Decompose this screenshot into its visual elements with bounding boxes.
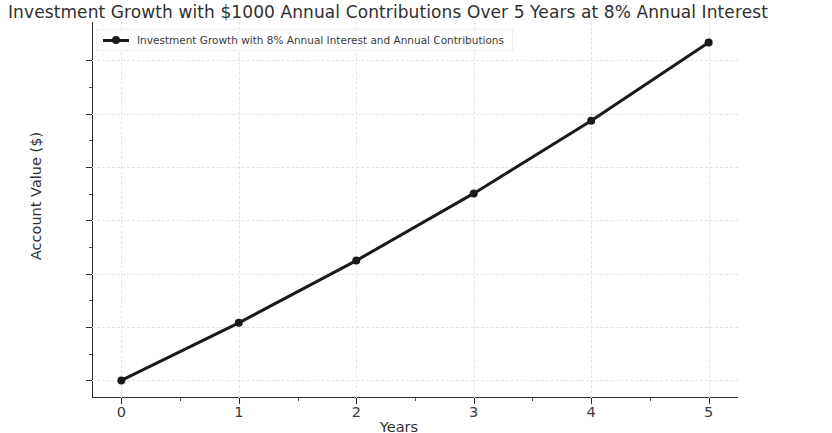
gridline-vertical	[709, 22, 710, 398]
y-tick-minor	[89, 354, 92, 355]
plot-area	[92, 22, 738, 398]
x-tick-minor	[650, 398, 651, 401]
y-tick-mark	[86, 274, 92, 275]
y-tick-minor	[89, 194, 92, 195]
gridline-horizontal	[92, 327, 738, 328]
gridline-horizontal	[92, 380, 738, 381]
x-tick-label: 2	[352, 404, 361, 420]
gridline-vertical	[356, 22, 357, 398]
gridline-horizontal	[92, 167, 738, 168]
y-tick-mark	[86, 60, 92, 61]
y-tick-mark	[86, 380, 92, 381]
y-tick-mark	[86, 167, 92, 168]
x-axis-label-text: Years	[380, 419, 418, 433]
y-tick-mark	[86, 220, 92, 221]
gridline-vertical	[474, 22, 475, 398]
legend-line-marker-icon	[103, 34, 129, 46]
gridline-horizontal	[92, 220, 738, 221]
chart-figure: Investment Growth with $1000 Annual Cont…	[0, 0, 832, 433]
y-tick-minor	[89, 87, 92, 88]
y-tick-minor	[89, 300, 92, 301]
gridline-vertical	[591, 22, 592, 398]
y-tick-mark	[86, 114, 92, 115]
y-tick-minor	[89, 247, 92, 248]
chart-title: Investment Growth with $1000 Annual Cont…	[8, 2, 768, 22]
y-tick-mark	[86, 327, 92, 328]
chart-legend: Investment Growth with 8% Annual Interes…	[96, 29, 513, 51]
x-tick-label: 4	[587, 404, 596, 420]
gridline-horizontal	[92, 114, 738, 115]
x-tick-minor	[180, 398, 181, 401]
y-tick-minor	[89, 140, 92, 141]
x-tick-minor	[298, 398, 299, 401]
x-tick-label: 5	[704, 404, 713, 420]
gridline-horizontal	[92, 274, 738, 275]
x-tick-minor	[532, 398, 533, 401]
gridline-horizontal	[92, 60, 738, 61]
x-tick-label: 1	[234, 404, 243, 420]
x-tick-minor	[415, 398, 416, 401]
gridline-vertical	[239, 22, 240, 398]
x-tick-label: 3	[469, 404, 478, 420]
y-axis-label: Account Value ($)	[28, 116, 44, 276]
gridline-vertical	[121, 22, 122, 398]
x-tick-label: 0	[117, 404, 126, 420]
legend-entry-label: Investment Growth with 8% Annual Interes…	[137, 34, 504, 46]
x-axis-label: Years	[0, 419, 832, 433]
